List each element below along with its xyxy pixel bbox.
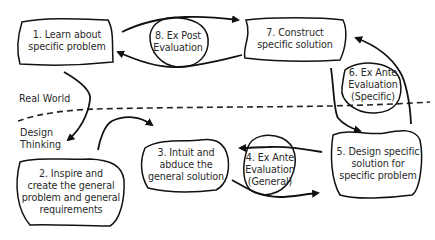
node-7-line-1: 7. Construct <box>252 27 338 39</box>
node-8-line-2: Evaluation <box>150 42 206 54</box>
edge-2-to-3 <box>98 117 152 150</box>
node-2-line-2: create the general <box>18 180 124 192</box>
node-2-line-4: requirements <box>18 204 124 216</box>
node-8-label: 8. Ex Post Evaluation <box>150 30 206 54</box>
node-1-label: 1. Learn about specific problem <box>27 29 107 53</box>
node-6-line-3: (Specific) <box>343 91 403 103</box>
node-5-line-1: 5. Design specific <box>332 146 424 158</box>
node-6-line-2: Evaluation <box>343 79 403 91</box>
node-6-label: 6. Ex Ante Evaluation (Specific) <box>343 67 403 103</box>
node-1-line-2: specific problem <box>27 41 107 53</box>
node-7-label: 7. Construct specific solution <box>252 27 338 51</box>
node-1-line-1: 1. Learn about <box>27 29 107 41</box>
node-3-line-3: general solution <box>144 171 228 183</box>
node-5-line-3: specific problem <box>332 170 424 182</box>
node-3-label: 3. Intuit and abduce the general solutio… <box>144 147 228 183</box>
node-4-line-2: Evaluation <box>243 164 297 176</box>
node-2-line-3: problem and general <box>18 192 124 204</box>
region-label-thinking: Thinking <box>20 139 61 151</box>
node-8-line-1: 8. Ex Post <box>150 30 206 42</box>
node-5-line-2: solution for <box>332 158 424 170</box>
node-4-label: 4. Ex Ante Evaluation (General) <box>243 152 297 188</box>
node-2-label: 2. Inspire and create the general proble… <box>18 168 124 216</box>
node-6-line-1: 6. Ex Ante <box>343 67 403 79</box>
node-7-line-2: specific solution <box>252 39 338 51</box>
region-label-real-world: Real World <box>19 93 70 105</box>
node-2-line-1: 2. Inspire and <box>18 168 124 180</box>
node-4-line-1: 4. Ex Ante <box>243 152 297 164</box>
node-5-label: 5. Design specific solution for specific… <box>332 146 424 182</box>
region-label-design-thinking: Design Thinking <box>20 127 61 151</box>
node-3-line-1: 3. Intuit and <box>144 147 228 159</box>
region-label-design: Design <box>20 127 61 139</box>
edge-7-to-1-return <box>118 52 242 67</box>
region-divider-line <box>18 102 430 121</box>
node-4-line-3: (General) <box>243 176 297 188</box>
node-3-line-2: abduce the <box>144 159 228 171</box>
edge-1-to-2 <box>64 72 90 140</box>
